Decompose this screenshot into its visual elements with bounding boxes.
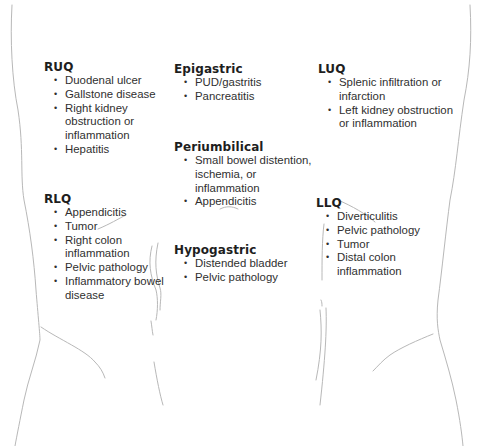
list-item: •Distended bladder (184, 257, 304, 271)
region-title-epigastric: Epigastric (174, 62, 294, 76)
right-iliac-line (373, 334, 433, 371)
list-item: •Gallstone disease (54, 88, 164, 102)
left-lower-rectus (154, 362, 163, 405)
bullet-icon: • (54, 220, 57, 234)
list-item: •Tumor (54, 220, 164, 234)
region-title-llq: LLQ (316, 196, 436, 210)
list-item: •Pelvic pathology (54, 261, 164, 275)
bullet-icon: • (184, 271, 187, 285)
left-iliac-line (41, 327, 105, 378)
list-item: •Pelvic pathology (184, 271, 304, 285)
right-rectus-line-outer-2 (321, 300, 322, 306)
left-lower-rectus-2 (151, 321, 153, 335)
list-item: •Tumor (326, 238, 436, 252)
region-epigastric: Epigastric •PUD/gastritis •Pancreatitis (174, 62, 294, 104)
bullet-icon: • (326, 238, 329, 252)
bullet-icon: • (326, 251, 329, 265)
list-item: •Distal colon inflammation (326, 251, 417, 279)
hypogastric-list: •Distended bladder •Pelvic pathology (174, 257, 304, 285)
list-item: •Pancreatitis (184, 90, 294, 104)
bullet-icon: • (184, 154, 187, 168)
llq-list: •Diverticulitis •Pelvic pathology •Tumor… (316, 210, 436, 279)
region-llq: LLQ •Diverticulitis •Pelvic pathology •T… (316, 196, 436, 279)
region-hypogastric: Hypogastric •Distended bladder •Pelvic p… (174, 243, 304, 285)
bullet-icon: • (328, 76, 331, 90)
list-item: •Small bowel distention, ischemia, or in… (184, 154, 323, 195)
list-item: •Diverticulitis (326, 210, 436, 224)
bullet-icon: • (184, 76, 187, 90)
bullet-icon: • (184, 257, 187, 271)
list-item: •Left kidney obstruction or inflammation (328, 104, 457, 132)
rlq-list: •Appendicitis •Tumor •Right colon inflam… (44, 206, 164, 303)
list-item: •Hepatitis (54, 143, 164, 157)
bullet-icon: • (54, 206, 57, 220)
region-luq: LUQ •Splenic infiltration or infarction … (318, 62, 458, 131)
list-item: •PUD/gastritis (184, 76, 294, 90)
bullet-icon: • (184, 195, 187, 209)
list-item: •Duodenal ulcer (54, 74, 164, 88)
ruq-list: •Duodenal ulcer •Gallstone disease •Righ… (44, 74, 164, 157)
bullet-icon: • (54, 102, 57, 116)
bullet-icon: • (184, 90, 187, 104)
bullet-icon: • (54, 234, 57, 248)
epigastric-list: •PUD/gastritis •Pancreatitis (174, 76, 294, 104)
bullet-icon: • (54, 88, 57, 102)
list-item: •Splenic infiltration or infarction (328, 76, 457, 104)
list-item: •Pelvic pathology (326, 224, 436, 238)
region-title-periumbilical: Periumbilical (174, 140, 324, 154)
bullet-icon: • (54, 261, 57, 275)
bullet-icon: • (54, 143, 57, 157)
region-rlq: RLQ •Appendicitis •Tumor •Right colon in… (44, 192, 164, 303)
region-ruq: RUQ •Duodenal ulcer •Gallstone disease •… (44, 60, 164, 157)
periumbilical-list: •Small bowel distention, ischemia, or in… (174, 154, 324, 209)
list-item: •Appendicitis (54, 206, 164, 220)
right-rectus-line-outer (316, 310, 321, 380)
region-title-luq: LUQ (318, 62, 458, 76)
region-periumbilical: Periumbilical •Small bowel distention, i… (174, 140, 324, 209)
list-item: •Right kidney obstruction or inflammatio… (54, 102, 149, 143)
region-title-ruq: RUQ (44, 60, 164, 74)
luq-list: •Splenic infiltration or infarction •Lef… (318, 76, 458, 131)
bullet-icon: • (54, 275, 57, 289)
bullet-icon: • (54, 74, 57, 88)
bullet-icon: • (326, 210, 329, 224)
list-item: •Appendicitis (184, 195, 324, 209)
list-item: •Inflammatory bowel disease (54, 275, 171, 303)
region-title-rlq: RLQ (44, 192, 164, 206)
left-flank-line (11, 5, 40, 446)
list-item: •Right colon inflammation (54, 234, 145, 262)
bullet-icon: • (326, 224, 329, 238)
region-title-hypogastric: Hypogastric (174, 243, 304, 257)
bullet-icon: • (328, 104, 331, 118)
